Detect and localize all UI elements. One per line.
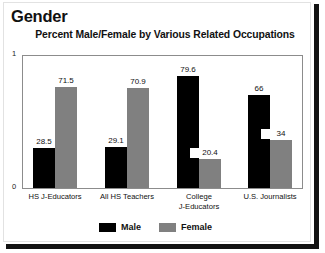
x-axis-category-line: U.S. Journalists <box>222 192 318 202</box>
bar-female <box>127 88 149 188</box>
bar-male <box>248 95 270 188</box>
x-axis-category-line: J-Educators <box>151 202 247 212</box>
slide-edge-bottom <box>6 244 319 249</box>
chart-legend: MaleFemale <box>0 222 311 232</box>
bar-group: 6634 <box>248 55 292 188</box>
bar-value-label: 66 <box>239 84 279 94</box>
bar-value-label: 70.9 <box>118 77 158 87</box>
bar-value-label: 34 <box>261 129 301 139</box>
legend-item: Female <box>159 222 212 232</box>
legend-swatch-icon <box>99 223 116 232</box>
chart-subtitle: Percent Male/Female by Various Related O… <box>32 29 298 40</box>
legend-label: Female <box>181 222 212 232</box>
bar-group: 79.620.4 <box>177 55 221 188</box>
bar-group: 28.571.5 <box>33 55 77 188</box>
slide-edge-right <box>314 4 319 247</box>
bar-female <box>199 159 221 188</box>
bar-group: 29.170.9 <box>105 55 149 188</box>
x-axis-category-label: U.S. Journalists <box>222 192 318 202</box>
bar-value-label: 71.5 <box>46 76 86 86</box>
bar-male <box>33 148 55 188</box>
legend-item: Male <box>99 222 141 232</box>
bar-female <box>55 87 77 188</box>
slide-canvas: Gender Percent Male/Female by Various Re… <box>0 0 325 253</box>
legend-label: Male <box>121 222 141 232</box>
legend-swatch-icon <box>159 223 176 232</box>
bar-male <box>177 76 199 188</box>
bar-male <box>105 147 127 188</box>
page-title: Gender <box>11 7 68 25</box>
y-axis-tick-max: 1 <box>12 49 16 58</box>
y-axis-tick-min: 0 <box>12 182 16 191</box>
bar-female <box>270 140 292 188</box>
bar-value-label: 79.6 <box>168 65 208 75</box>
bar-value-label: 20.4 <box>190 148 230 158</box>
